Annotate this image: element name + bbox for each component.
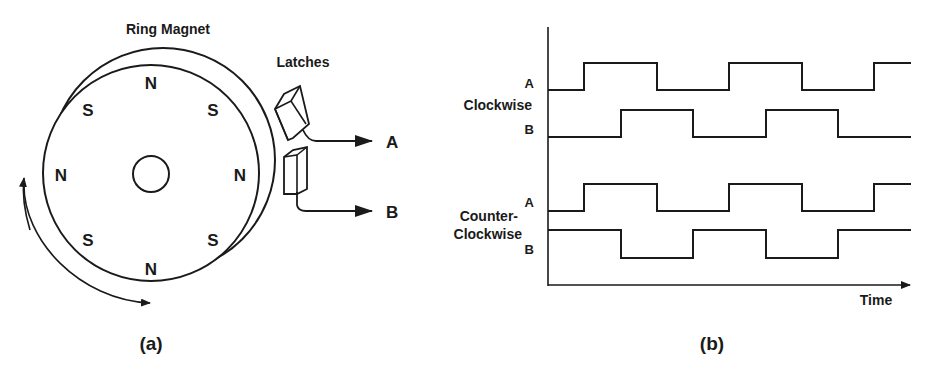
pole-label: S xyxy=(207,101,218,120)
ring-magnet-label: Ring Magnet xyxy=(126,21,210,37)
output-b-label: B xyxy=(386,203,398,222)
cw-b-label: B xyxy=(525,122,534,137)
ccw-a-label: A xyxy=(525,195,535,210)
output-b-arrow-icon xyxy=(297,192,372,211)
pole-label: N xyxy=(55,166,67,185)
counter-clockwise-group-label-line2: Clockwise xyxy=(454,226,523,242)
cw-a-waveform xyxy=(548,63,911,90)
pole-label: S xyxy=(82,101,93,120)
pole-label: S xyxy=(82,231,93,250)
latch-b-sensor xyxy=(284,147,307,194)
pole-label: N xyxy=(145,74,157,93)
caption-a: (a) xyxy=(139,333,162,354)
pole-label: S xyxy=(207,231,218,250)
panel-b: Time A Clockwise B A Counter- Clockwise … xyxy=(454,27,911,354)
cw-b-waveform xyxy=(548,110,911,137)
pole-label: N xyxy=(145,260,157,279)
caption-b: (b) xyxy=(700,333,724,354)
output-a-label: A xyxy=(386,133,398,152)
ccw-b-label: B xyxy=(525,242,534,257)
clockwise-group-label: Clockwise xyxy=(464,97,533,113)
time-axis-label: Time xyxy=(860,292,893,308)
latches-label: Latches xyxy=(277,54,330,70)
ccw-b-waveform xyxy=(548,230,911,258)
cw-a-label: A xyxy=(525,76,535,91)
ccw-a-waveform xyxy=(548,184,911,211)
panel-a: Ring Magnet Latches N S S N N S S N xyxy=(23,21,398,354)
pole-label: N xyxy=(234,166,246,185)
output-a-arrow-icon xyxy=(303,130,372,141)
ring-magnet-encoder-figure: Ring Magnet Latches N S S N N S S N xyxy=(0,0,928,373)
inner-magnet-disc xyxy=(43,65,259,281)
counter-clockwise-group-label-line1: Counter- xyxy=(460,208,519,224)
